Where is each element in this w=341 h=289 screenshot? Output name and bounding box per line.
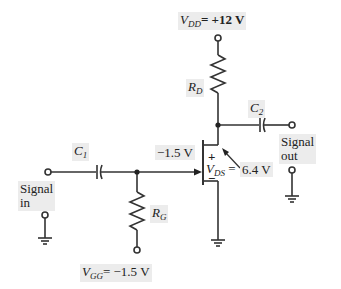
signal-out-terminal: [289, 122, 295, 128]
vdd-value: = +12 V: [201, 12, 244, 27]
rg-label: RG: [150, 205, 168, 223]
rd-subscript: D: [196, 86, 203, 96]
signal-out-label: Signal out: [279, 134, 316, 164]
c1-symbol: C: [74, 143, 83, 158]
vgg-symbol: V: [82, 264, 90, 279]
vgg-terminal: [134, 247, 140, 253]
c1-label: C1: [72, 143, 89, 161]
gate-arrow-icon: [194, 169, 202, 176]
signal-in-label: Signal in: [18, 181, 55, 211]
in-ground-terminal: [42, 212, 48, 218]
gate-voltage-label: −1.5 V: [155, 145, 195, 160]
vds-equals: =: [228, 161, 235, 176]
drain-junction-node: [215, 122, 220, 127]
rg-subscript: G: [160, 212, 167, 222]
signal-in-line1: Signal: [20, 182, 53, 196]
vdd-symbol: V: [180, 12, 188, 27]
vgg-value: = −1.5 V: [103, 264, 150, 279]
rg-resistor: [130, 192, 144, 230]
vdd-subscript: DD: [188, 19, 201, 29]
out-ground-terminal: [289, 167, 295, 173]
c1-subscript: 1: [83, 150, 88, 160]
signal-out-line2: out: [281, 149, 314, 163]
rd-symbol: R: [188, 79, 196, 94]
vdd-label: VDD= +12 V: [178, 12, 246, 30]
vds-symbol: V: [206, 161, 214, 176]
c2-subscript: 2: [259, 107, 264, 117]
rg-symbol: R: [152, 205, 160, 220]
rd-resistor: [211, 55, 225, 93]
vds-subscript: DS: [214, 168, 225, 178]
c2-symbol: C: [250, 100, 259, 115]
signal-in-line2: in: [20, 196, 53, 210]
vds-label: VDS =: [206, 162, 236, 178]
vds-value: 6.4 V: [240, 162, 273, 177]
c2-label: C2: [248, 100, 265, 118]
vgg-subscript: GG: [90, 271, 103, 281]
signal-out-line1: Signal: [281, 135, 314, 149]
signal-in-terminal: [45, 169, 51, 175]
rd-label: RD: [186, 79, 204, 97]
vgg-label: VGG= −1.5 V: [80, 264, 152, 282]
vdd-terminal: [215, 35, 221, 41]
gate-junction-node: [134, 169, 139, 174]
